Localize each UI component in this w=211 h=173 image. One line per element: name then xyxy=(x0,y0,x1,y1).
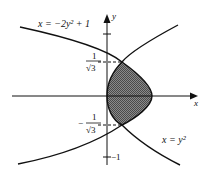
region-diagram: x = −2y² + 1 x = y² x y 1 √3 − 1 √3 −1 xyxy=(0,0,211,173)
tick-label-bottom-numerator: 1 xyxy=(92,112,97,122)
label-y-axis: y xyxy=(111,11,116,21)
tick-label-bottom-sign: − xyxy=(78,118,83,128)
tick-label-minus-one: −1 xyxy=(111,152,121,162)
tick-label-top-numerator: 1 xyxy=(92,51,97,61)
tick-label-top-denominator: √3 xyxy=(86,63,96,73)
y-axis-arrow-icon xyxy=(104,14,111,23)
tick-label-bottom-denominator: √3 xyxy=(86,125,96,135)
label-x-axis: x xyxy=(193,98,198,108)
label-curve-y2: x = y² xyxy=(161,134,187,145)
label-curve-neg2y2-plus1: x = −2y² + 1 xyxy=(37,18,90,29)
